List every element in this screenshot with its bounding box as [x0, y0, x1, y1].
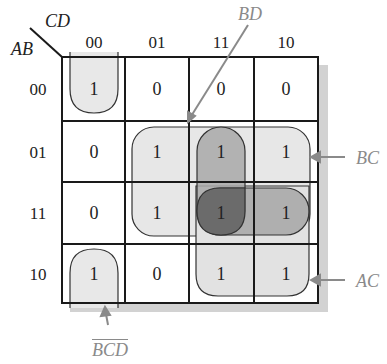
col-header-11: 11: [205, 34, 237, 51]
col-header-01: 01: [141, 34, 173, 51]
cell-r1-c3: 1: [276, 143, 296, 161]
cell-r1-c2: 1: [211, 143, 231, 161]
cell-r2-c2: 1: [211, 204, 231, 222]
row-header-10: 10: [22, 266, 54, 283]
cell-r1-c0: 0: [84, 143, 104, 161]
label-bcd-not-d: D: [115, 340, 128, 360]
label-bd: BD: [238, 5, 262, 23]
label-bcd-not-b: B: [92, 340, 103, 360]
karnaugh-map: [0, 0, 387, 364]
row-header-11: 11: [22, 205, 54, 222]
cell-r3-c0: 1: [84, 265, 104, 283]
row-variable-label: AB: [11, 40, 33, 58]
cell-r2-c1: 1: [147, 204, 167, 222]
label-bcd-not-c: C: [103, 340, 115, 360]
cell-r3-c1: 0: [147, 265, 167, 283]
cell-r3-c3: 1: [276, 265, 296, 283]
cell-r0-c1: 0: [147, 80, 167, 98]
label-bc: BC: [356, 149, 379, 167]
cell-r2-c0: 0: [84, 204, 104, 222]
cell-r3-c2: 1: [211, 265, 231, 283]
cell-r0-c2: 0: [211, 80, 231, 98]
row-header-01: 01: [22, 144, 54, 161]
cell-r0-c0: 1: [84, 80, 104, 98]
label-bcd-not: BCD: [92, 341, 128, 359]
row-header-00: 00: [22, 81, 54, 98]
label-ac: AC: [356, 272, 379, 290]
cell-r2-c3: 1: [276, 204, 296, 222]
col-header-10: 10: [270, 34, 302, 51]
corner-diagonal: [30, 28, 62, 57]
cell-r0-c3: 0: [276, 80, 296, 98]
cell-r1-c1: 1: [147, 143, 167, 161]
col-header-00: 00: [78, 34, 110, 51]
col-variable-label: CD: [45, 12, 70, 30]
